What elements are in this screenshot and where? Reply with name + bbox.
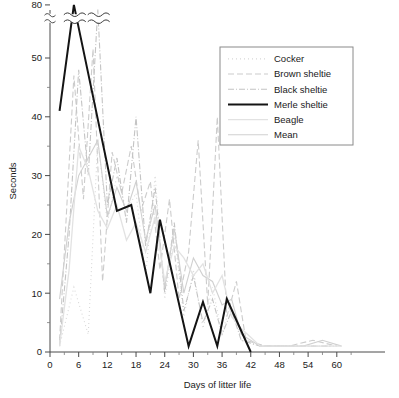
line-chart-svg: 010203040508006121824303642485460Days of…: [0, 0, 399, 398]
legend-label-brown-sheltie: Brown sheltie: [274, 68, 331, 79]
plot-break-mark-1: [88, 13, 110, 24]
y-tick-label-10: 10: [31, 288, 42, 299]
y-tick-label-80: 80: [31, 0, 42, 10]
legend-label-beagle: Beagle: [274, 114, 304, 125]
x-tick-label-24: 24: [159, 359, 170, 370]
legend: CockerBrown sheltieBlack sheltieMerle sh…: [220, 47, 353, 145]
x-tick-label-6: 6: [76, 359, 81, 370]
plot-break-mask-0: [64, 14, 86, 22]
legend-label-mean: Mean: [274, 129, 298, 140]
x-tick-label-36: 36: [217, 359, 228, 370]
x-tick-label-12: 12: [102, 359, 113, 370]
x-tick-label-42: 42: [245, 359, 256, 370]
y-axis-title: Seconds: [7, 162, 18, 199]
y-tick-label-0: 0: [37, 346, 42, 357]
legend-label-merle-sheltie: Merle sheltie: [274, 99, 328, 110]
x-tick-label-0: 0: [47, 359, 52, 370]
plot-break-mark-0: [64, 13, 86, 24]
chart-figure: 010203040508006121824303642485460Days of…: [0, 0, 399, 398]
y-tick-label-20: 20: [31, 229, 42, 240]
x-tick-label-60: 60: [332, 359, 343, 370]
x-tick-label-48: 48: [274, 359, 285, 370]
legend-label-black-sheltie: Black sheltie: [274, 84, 327, 95]
y-axis-break-marker: [45, 14, 56, 23]
y-tick-label-30: 30: [31, 170, 42, 181]
x-tick-label-30: 30: [188, 359, 199, 370]
x-tick-label-54: 54: [303, 359, 314, 370]
y-tick-label-40: 40: [31, 111, 42, 122]
y-tick-label-50: 50: [31, 52, 42, 63]
x-tick-label-18: 18: [131, 359, 142, 370]
x-axis-title: Days of litter life: [184, 379, 252, 390]
plot-break-mask-1: [88, 14, 110, 22]
legend-label-cocker: Cocker: [274, 53, 304, 64]
